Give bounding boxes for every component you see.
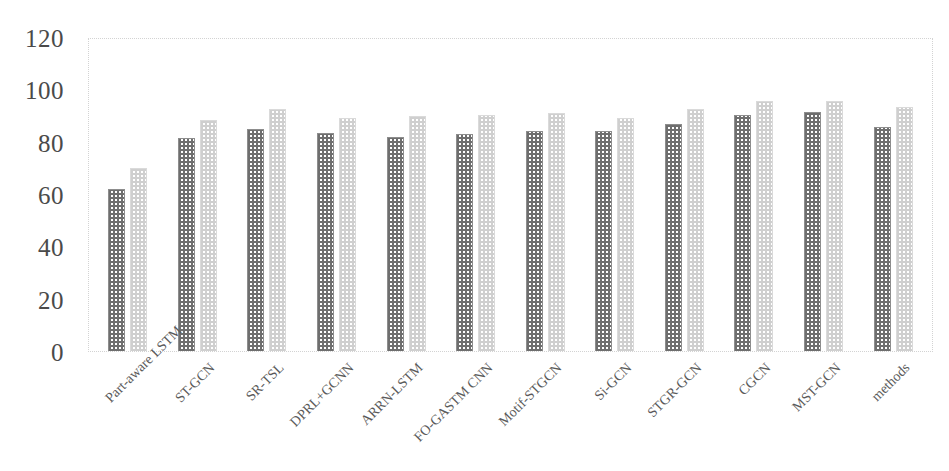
bar [548,113,565,351]
bar-group [232,39,302,351]
bar [874,127,891,352]
bar [526,131,543,351]
y-tick-label: 40 [38,235,64,260]
bar-group [650,39,720,351]
bar-group [510,39,580,351]
bar [178,138,195,351]
bar [108,189,125,351]
bar-group [858,39,928,351]
bar [595,131,612,351]
bar [339,118,356,351]
y-axis: 120100806040200 [0,0,78,471]
bar [617,118,634,351]
bar [456,134,473,351]
y-tick-label: 100 [25,78,64,103]
x-axis: Part-aware LSTMST-GCNSR-TSLDPRL+GCNNARRN… [88,352,933,471]
bar [804,112,821,351]
bar [896,107,913,351]
y-tick-label: 120 [25,26,64,51]
bar-group [93,39,163,351]
bar-group [789,39,859,351]
bar [247,129,264,351]
bar [665,124,682,351]
bar [478,115,495,351]
bar [409,116,426,351]
bar-group [719,39,789,351]
bar [317,133,334,351]
bar-group [163,39,233,351]
y-tick-label: 20 [38,287,64,312]
bar-group [371,39,441,351]
bar-group [441,39,511,351]
y-tick-label: 60 [38,183,64,208]
bar [734,115,751,351]
y-tick-label: 80 [38,130,64,155]
y-tick-label: 0 [51,340,64,365]
bar [387,137,404,351]
bar [269,109,286,351]
x-tick-label: Part-aware LSTM [102,360,148,406]
bar-group [580,39,650,351]
bar [200,120,217,351]
bar [130,168,147,351]
bar-chart: 120100806040200 Part-aware LSTMST-GCNSR-… [0,0,949,471]
bar-group [302,39,372,351]
plot-area [88,38,933,352]
bars-layer [89,39,932,351]
bar [687,109,704,351]
bar [826,101,843,351]
bar [756,101,773,351]
